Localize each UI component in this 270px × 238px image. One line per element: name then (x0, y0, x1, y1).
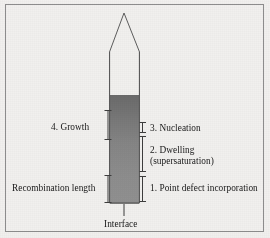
label-dwelling: 2. Dwelling (supersaturation) (150, 145, 214, 167)
nucleation-bracket (140, 122, 147, 133)
diagram-artwork (0, 0, 270, 238)
label-growth: 4. Growth (51, 122, 89, 133)
dwelling-bracket (140, 136, 147, 172)
gradient-melt-region (110, 95, 139, 203)
label-interface: Interface (104, 219, 137, 230)
label-dwelling-line2: (supersaturation) (150, 156, 214, 167)
point-defect-bracket (140, 176, 147, 202)
label-recombination-length: Recombination length (12, 183, 95, 194)
figure-root: 4. Growth Recombination length 3. Nuclea… (0, 0, 270, 238)
label-nucleation: 3. Nucleation (150, 123, 201, 134)
label-point-defect-incorporation: 1. Point defect incorporation (150, 183, 258, 194)
label-dwelling-line1: 2. Dwelling (150, 145, 214, 156)
